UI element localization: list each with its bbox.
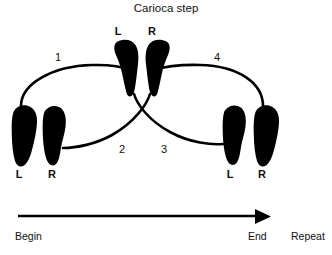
step-number-4: 4 bbox=[214, 51, 220, 63]
footprint-start-right bbox=[43, 106, 66, 166]
label-begin: Begin bbox=[15, 230, 42, 242]
footprint-start-left bbox=[12, 105, 37, 166]
label-repeat: Repeat bbox=[291, 230, 325, 242]
step-number-1: 1 bbox=[55, 51, 61, 63]
label-start-right-foot: R bbox=[48, 168, 56, 180]
carioca-step-diagram: Carioca step L R L R L R 1 4 2 3 Begin E… bbox=[0, 0, 332, 255]
direction-arrow-head bbox=[255, 209, 271, 224]
diagram-canvas: Carioca step L R L R L R 1 4 2 3 Begin E… bbox=[0, 0, 332, 255]
step-path-4 bbox=[153, 65, 263, 106]
label-start-left-foot: L bbox=[16, 168, 23, 180]
label-center-right-foot: R bbox=[148, 25, 156, 37]
label-end: End bbox=[248, 230, 267, 242]
footprint-finish-right bbox=[254, 105, 279, 166]
step-path-1 bbox=[21, 65, 131, 106]
step-number-2: 2 bbox=[119, 143, 125, 155]
step-number-3: 3 bbox=[161, 143, 167, 155]
figure-title: Carioca step bbox=[134, 2, 199, 14]
label-center-left-foot: L bbox=[115, 25, 122, 37]
label-finish-left-foot: L bbox=[227, 168, 234, 180]
footprint-center-left bbox=[114, 40, 138, 97]
footprint-finish-left bbox=[223, 105, 246, 165]
label-finish-right-foot: R bbox=[258, 168, 266, 180]
